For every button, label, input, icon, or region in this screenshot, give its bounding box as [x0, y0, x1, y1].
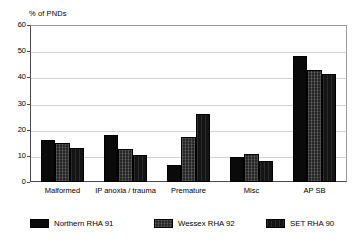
- legend-swatch-icon: [154, 219, 173, 228]
- x-axis-label: Malformed: [45, 186, 80, 195]
- y-tick-mark-0: [27, 182, 30, 183]
- y-tick-label-50: 50: [0, 47, 26, 55]
- x-axis-label: IP anoxia / trauma: [95, 186, 156, 195]
- bar[interactable]: [55, 143, 70, 182]
- bar[interactable]: [322, 74, 337, 182]
- y-tick-label-20: 20: [0, 126, 26, 134]
- bar[interactable]: [104, 135, 119, 182]
- bar-group: [94, 26, 157, 182]
- bars-layer: [31, 26, 346, 182]
- x-axis-label: Misc: [244, 186, 259, 195]
- y-axis-title: % of PNDs: [29, 9, 67, 18]
- bar-group: [220, 26, 283, 182]
- legend-label: SET RHA 90: [290, 219, 334, 228]
- y-tick-label-0: 0: [0, 178, 26, 186]
- bar[interactable]: [133, 155, 148, 182]
- x-axis-label: AP SB: [304, 186, 326, 195]
- legend-label: Wessex RHA 92: [178, 219, 235, 228]
- bar[interactable]: [244, 154, 259, 182]
- legend-swatch-icon: [266, 219, 285, 228]
- y-tick-label-10: 10: [0, 152, 26, 160]
- bar[interactable]: [230, 157, 245, 182]
- bar-chart: % of PNDs 60 50 40 30 20 10 0 MalformedI…: [0, 0, 362, 241]
- y-tick-mark-50: [27, 51, 30, 52]
- bar[interactable]: [196, 114, 211, 182]
- bar[interactable]: [167, 165, 182, 182]
- bar[interactable]: [293, 56, 308, 182]
- bar-group: [31, 26, 94, 182]
- bar-group: [157, 26, 220, 182]
- y-tick-label-30: 30: [0, 100, 26, 108]
- y-tick-label-60: 60: [0, 21, 26, 29]
- bar[interactable]: [259, 161, 274, 182]
- legend-swatch-icon: [30, 219, 49, 228]
- bar[interactable]: [118, 149, 133, 182]
- legend-item[interactable]: Wessex RHA 92: [154, 216, 235, 230]
- y-tick-mark-10: [27, 156, 30, 157]
- y-tick-mark-30: [27, 104, 30, 105]
- x-axis-label: Premature: [171, 186, 206, 195]
- y-tick-label-40: 40: [0, 73, 26, 81]
- bar[interactable]: [41, 140, 56, 182]
- legend-item[interactable]: Northern RHA 91: [30, 216, 113, 230]
- legend-item[interactable]: SET RHA 90: [266, 216, 334, 230]
- chart-legend: Northern RHA 91Wessex RHA 92SET RHA 90: [30, 216, 350, 234]
- bar[interactable]: [70, 148, 85, 182]
- legend-label: Northern RHA 91: [54, 219, 113, 228]
- y-tick-mark-20: [27, 130, 30, 131]
- y-tick-mark-40: [27, 77, 30, 78]
- bar-group: [283, 26, 346, 182]
- y-tick-mark-60: [27, 25, 30, 26]
- bar[interactable]: [181, 137, 196, 182]
- bar[interactable]: [307, 70, 322, 182]
